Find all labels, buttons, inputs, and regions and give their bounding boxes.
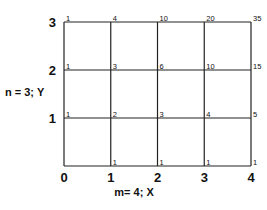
x-tick-label: 1 [107, 170, 114, 185]
node-value-label: 3 [160, 110, 164, 119]
node-value-label: 6 [160, 62, 164, 71]
x-tick-label: 2 [154, 170, 161, 185]
node-value-label: 1 [160, 158, 164, 167]
x-tick-label: 3 [201, 170, 208, 185]
x-tick-label: 4 [247, 170, 255, 185]
node-value-label: 4 [113, 14, 117, 23]
node-value-label: 1 [113, 158, 117, 167]
y-tick-label: 1 [49, 111, 56, 126]
grid-lines [64, 22, 251, 166]
node-value-label: 3 [113, 62, 117, 71]
node-value-label: 35 [253, 14, 261, 23]
node-value-label: 1 [66, 110, 70, 119]
node-value-label: 15 [253, 62, 261, 71]
node-value-label: 4 [206, 110, 210, 119]
node-value-label: 1 [66, 14, 70, 23]
node-values: 111112345136101514102035 [66, 14, 261, 167]
node-value-label: 1 [206, 158, 210, 167]
node-value-label: 2 [113, 110, 117, 119]
x-tick-label: 0 [60, 170, 67, 185]
y-axis-label: n = 3; Y [5, 86, 45, 98]
y-tick-label: 2 [49, 63, 56, 78]
lattice-path-diagram: 111112345136101514102035 01234123 n = 3;… [0, 0, 267, 210]
node-value-label: 1 [66, 62, 70, 71]
node-value-label: 5 [253, 110, 257, 119]
y-tick-label: 3 [49, 15, 56, 30]
x-axis-label: m= 4; X [114, 186, 154, 198]
node-value-label: 20 [206, 14, 214, 23]
node-value-label: 10 [206, 62, 214, 71]
node-value-label: 1 [253, 158, 257, 167]
node-value-label: 10 [160, 14, 168, 23]
axis-ticks: 01234123 [49, 15, 256, 185]
